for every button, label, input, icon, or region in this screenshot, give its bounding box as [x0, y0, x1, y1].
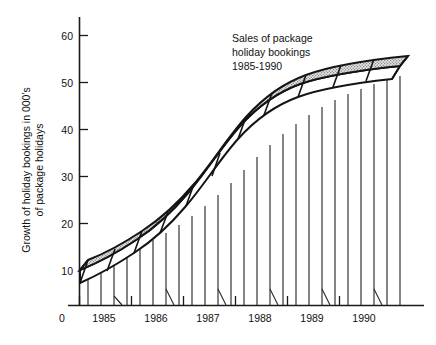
x-tick-label-1985: 1985 — [92, 312, 116, 324]
x-tick-label-1989: 1989 — [300, 312, 324, 324]
y-tick-label-20: 20 — [61, 218, 73, 230]
chart-title-line-3: 1985-1990 — [232, 60, 282, 72]
x-tick-label-origin: 0 — [59, 312, 65, 324]
x-tick-label-1987: 1987 — [196, 312, 220, 324]
x-tick-label-1988: 1988 — [248, 312, 272, 324]
chart-container: Growth of holiday bookings in 000's of p… — [0, 0, 436, 345]
chart-title-line-2: holiday bookings — [232, 46, 310, 58]
y-axis-label-line-1: Growth of holiday bookings in 000's — [20, 87, 32, 252]
y-tick-label-60: 60 — [61, 30, 73, 42]
chart-title-line-1: Sales of package — [232, 32, 313, 44]
x-tick-label-1990: 1990 — [352, 312, 376, 324]
y-tick-label-40: 40 — [61, 124, 73, 136]
y-tick-label-50: 50 — [61, 77, 73, 89]
y-tick-label-10: 10 — [61, 265, 73, 277]
package-holiday-bookings-chart: Growth of holiday bookings in 000's of p… — [0, 0, 436, 345]
y-axis-label-line-2: of package holidays — [33, 124, 45, 217]
x-tick-label-1986: 1986 — [144, 312, 168, 324]
y-tick-label-30: 30 — [61, 171, 73, 183]
